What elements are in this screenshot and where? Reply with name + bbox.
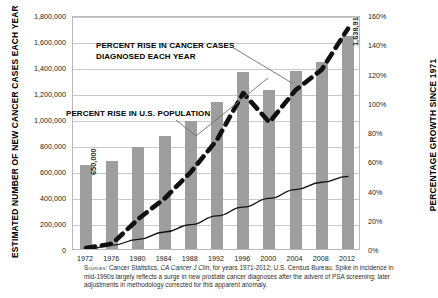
source-note: Sources: Cancer Statistics, CA Cancer J … bbox=[84, 264, 400, 290]
source-text-a: Cancer Statistics, bbox=[107, 264, 160, 271]
source-prefix: Sources: bbox=[84, 264, 107, 271]
source-journal: CA Cancer J Clin bbox=[160, 264, 209, 271]
